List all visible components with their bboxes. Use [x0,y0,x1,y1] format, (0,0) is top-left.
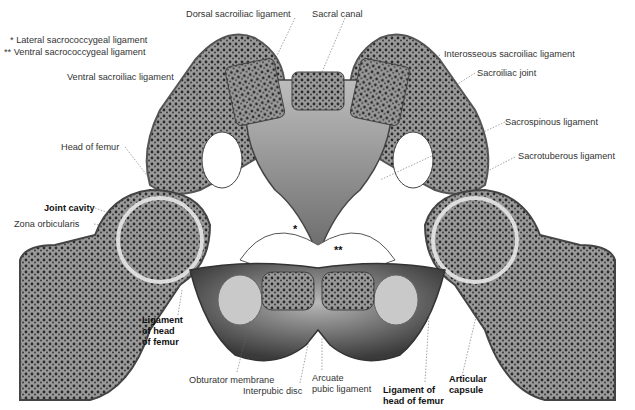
marker-ventral-sacrococcygeal: ** [334,245,343,256]
legend-marker-double: ** [4,47,11,57]
label-ligament-head-femur-right: Ligament of head of femur [383,385,444,407]
label-interosseous-sacroiliac: Interosseous sacroiliac ligament [444,49,575,60]
pubic-bone-right [322,272,374,310]
label-sacrotuberous: Sacrotuberous ligament [518,151,615,162]
label-sacroiliac-joint: Sacroiliac joint [477,68,536,79]
greater-sciatic-left [202,132,242,188]
label-zona-orbicularis: Zona orbicularis [14,219,79,230]
label-interpubic-disc: Interpubic disc [243,386,302,397]
pelvis-illustration [0,0,635,410]
legend-label-ventral-sacrococcygeal: Ventral sacrococcygeal ligament [14,47,146,57]
label-arcuate-pubic: Arcuate pubic ligament [312,373,371,395]
legend-double-star: ** Ventral sacrococcygeal ligament [4,47,145,58]
label-sacral-canal: Sacral canal [312,9,363,20]
greater-sciatic-right [393,132,433,188]
label-sacrospinous: Sacrospinous ligament [505,117,598,128]
sacrum-body [292,72,344,110]
label-ventral-sacroiliac: Ventral sacroiliac ligament [67,72,174,83]
label-obturator-membrane: Obturator membrane [189,375,274,386]
obturator-membrane-left [218,275,262,325]
legend-single-star: * Lateral sacrococcygeal ligament [10,35,147,46]
label-articular-capsule: Articular capsule [449,374,487,396]
pubic-bone-left [262,272,314,310]
label-dorsal-sacroiliac: Dorsal sacroiliac ligament [186,9,291,20]
obturator-membrane-right [374,275,418,325]
label-joint-cavity: Joint cavity [44,203,95,214]
legend-label-lateral-sacrococcygeal: Lateral sacrococcygeal ligament [16,35,147,45]
marker-lateral-sacrococcygeal: * [293,224,297,235]
label-ligament-head-femur-left: Ligament of head of femur [142,315,183,348]
label-head-of-femur: Head of femur [61,142,119,153]
legend-marker-single: * [10,35,14,45]
